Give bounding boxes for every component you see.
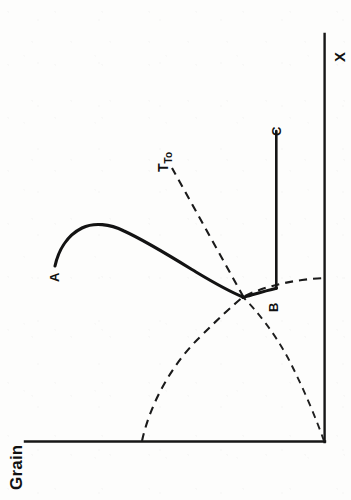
point-label-b: B: [267, 303, 280, 312]
curve-a-b: [55, 224, 243, 297]
t0-main-char: T: [155, 163, 171, 172]
figure-canvas: [0, 0, 351, 500]
point-label-a: A: [48, 273, 61, 282]
origin-dashed-curve: [243, 297, 324, 441]
lower-dashed-arc: [142, 278, 326, 441]
t0-subscript: To: [163, 152, 174, 163]
x-axis-label: X: [332, 52, 347, 62]
point-label-c: C: [270, 127, 283, 136]
grain-axis-label: Grain: [8, 445, 25, 490]
figure-root: Grain X A B C TTo: [0, 0, 351, 500]
t0-ray-label: TTo: [156, 152, 174, 172]
